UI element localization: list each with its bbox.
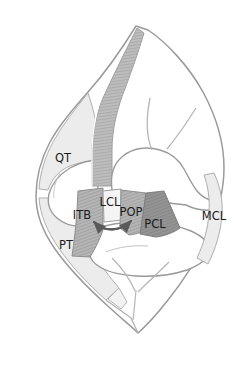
knee-anatomy-figure: QT ITB LCL POP PCL MCL PT (0, 0, 248, 366)
label-pt: PT (59, 238, 74, 252)
label-pcl: PCL (144, 217, 166, 231)
label-pop: POP (120, 205, 143, 219)
label-mcl: MCL (202, 209, 227, 223)
label-qt: QT (55, 151, 72, 165)
knee-anatomy-illustration: QT ITB LCL POP PCL MCL PT (0, 0, 248, 366)
label-itb: ITB (73, 208, 91, 222)
label-lcl: LCL (100, 195, 121, 209)
